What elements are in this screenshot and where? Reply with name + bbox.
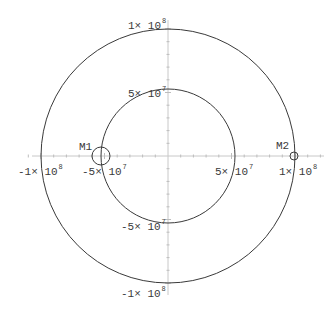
y-tick-label: 1× 108 bbox=[128, 17, 166, 32]
m1-label: M1 bbox=[79, 141, 93, 153]
bodies: M1M2 bbox=[79, 140, 298, 165]
body-m1: M1 bbox=[79, 141, 110, 165]
y-tick-label: -5× 107 bbox=[121, 218, 166, 233]
orbit-diagram: M1M2 -1× 108-5× 1075× 1071× 1081× 1085× … bbox=[0, 0, 336, 312]
axes bbox=[28, 20, 324, 295]
x-tick-label: -5× 107 bbox=[82, 163, 127, 178]
y-tick-label: 5× 107 bbox=[128, 85, 166, 100]
m2-label: M2 bbox=[276, 140, 289, 152]
y-tick-label: -1× 108 bbox=[121, 285, 166, 300]
x-tick-label: 5× 107 bbox=[215, 163, 253, 178]
x-tick-label: -1× 108 bbox=[18, 163, 63, 178]
x-tick-label: 1× 108 bbox=[279, 163, 317, 178]
